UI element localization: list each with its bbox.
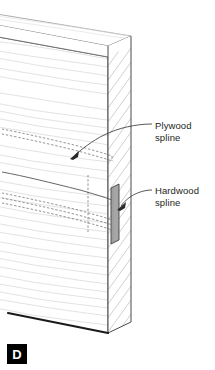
- callout-label-hardwood-spline: Hardwood spline: [155, 185, 199, 208]
- callout-hardwood-line2: spline: [155, 197, 199, 209]
- hardwood-spline-part: [111, 184, 119, 244]
- figure-panel: Plywood spline Hardwood spline D: [0, 0, 215, 370]
- figure-marker-badge: D: [7, 344, 27, 364]
- callout-plywood-line1: Plywood: [155, 120, 192, 131]
- callout-hardwood-line1: Hardwood: [155, 185, 199, 196]
- callout-plywood-line2: spline: [155, 132, 192, 144]
- callout-label-plywood-spline: Plywood spline: [155, 120, 192, 143]
- board-front-face: [0, 30, 108, 333]
